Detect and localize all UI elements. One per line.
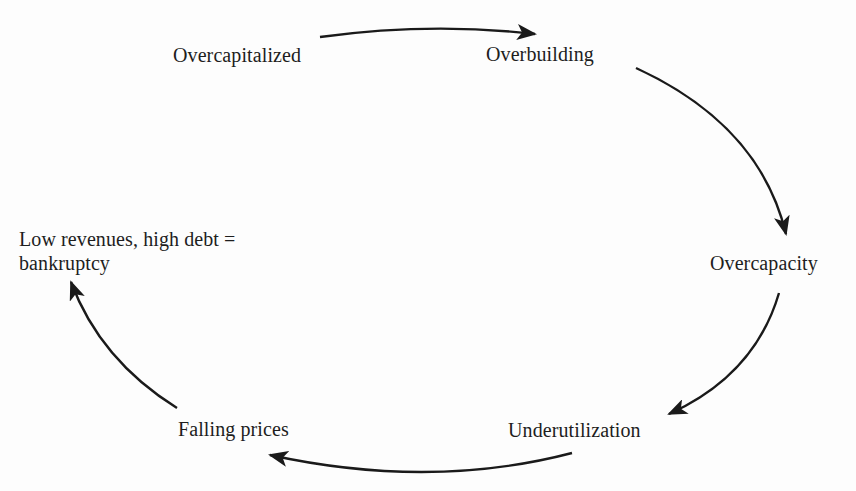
node-overcapacity: Overcapacity [710,251,818,275]
node-bankruptcy: Low revenues, high debt = bankruptcy [19,227,289,275]
arrow-overcapacity-to-underutilization [669,293,779,414]
node-falling-prices: Falling prices [178,417,289,441]
arrow-falling-prices-to-bankruptcy [71,282,177,408]
node-overbuilding: Overbuilding [486,42,594,66]
node-underutilization: Underutilization [508,418,641,442]
arrow-overcapitalized-to-overbuilding [320,29,535,37]
arrow-overbuilding-to-overcapacity [636,68,786,234]
node-bankruptcy-line1: Low revenues, high debt = [19,227,289,251]
node-overcapitalized: Overcapitalized [173,43,301,67]
arrow-underutilization-to-falling-prices [270,453,572,472]
cycle-diagram: Overcapitalized Overbuilding Overcapacit… [0,0,856,491]
node-bankruptcy-line2: bankruptcy [19,251,289,275]
